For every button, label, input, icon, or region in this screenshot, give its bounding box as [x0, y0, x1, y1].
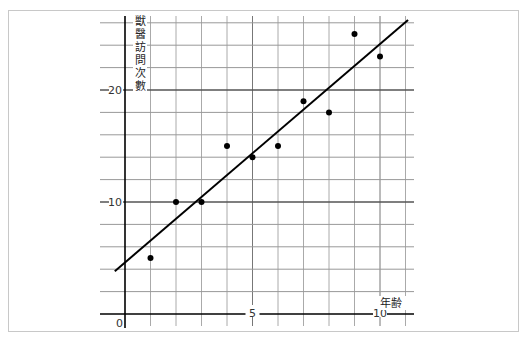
- y-tick-label: 10: [108, 196, 122, 209]
- y-axis-title-char: 數: [135, 80, 146, 93]
- data-point: [148, 255, 154, 261]
- y-axis-title-char: 次: [135, 66, 146, 80]
- trend-line: [115, 20, 408, 271]
- y-axis-title-char: 問: [135, 54, 146, 67]
- data-point: [173, 199, 179, 205]
- data-point: [352, 31, 358, 37]
- data-point: [199, 199, 205, 205]
- grid-lines: [100, 16, 414, 326]
- data-point: [377, 53, 383, 59]
- data-point: [326, 109, 332, 115]
- regression-line: [115, 20, 408, 271]
- data-point: [224, 143, 230, 149]
- y-axis-title: 獣醫訪問次數: [135, 14, 146, 93]
- scatter-chart: 05101020 獣醫訪問次數 年齢: [0, 0, 528, 343]
- x-tick-label: 5: [249, 307, 256, 320]
- data-point: [250, 154, 256, 160]
- x-axis-title: 年齢: [380, 296, 402, 310]
- x-tick-label: 0: [116, 317, 123, 330]
- data-point: [301, 98, 307, 104]
- y-axis-title-char: 訪: [135, 40, 146, 54]
- data-point: [275, 143, 281, 149]
- tick-labels: 05101020: [108, 84, 387, 330]
- y-axis-title-char: 醫: [135, 28, 146, 41]
- y-tick-label: 20: [108, 84, 122, 97]
- data-points: [148, 31, 384, 261]
- y-axis-title-char: 獣: [135, 14, 146, 28]
- axes: [100, 16, 414, 328]
